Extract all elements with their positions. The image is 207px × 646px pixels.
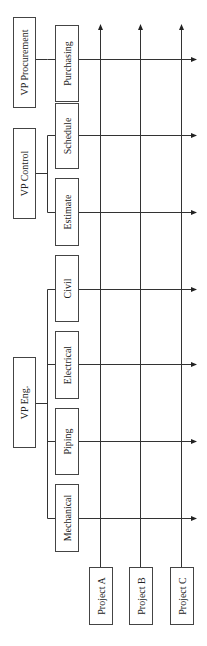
dept-box-electrical-label: Electrical [62,346,73,385]
vp-box-vp-procurement: VP Procurement [14,18,36,108]
dept-box-electrical: Electrical [56,332,79,399]
project-box-project-b-label: Project B [136,577,147,615]
dept-box-piping-label: Piping [62,428,73,454]
vp-box-vp-procurement-label: VP Procurement [19,29,30,95]
project-box-project-b: Project B [130,568,153,625]
dept-box-purchasing: Purchasing [56,26,79,102]
vp-box-vp-eng: VP Eng. [14,358,36,448]
project-box-project-a: Project A [90,568,113,625]
org-boxes: PurchasingVP ProcurementScheduleEstimate… [14,18,194,625]
project-box-project-a-label: Project A [96,576,107,614]
dept-box-estimate: Estimate [56,179,79,246]
project-box-project-c: Project C [171,568,194,625]
dept-box-estimate-label: Estimate [62,194,73,230]
dept-box-civil-label: Civil [62,278,73,298]
dept-box-piping: Piping [56,409,79,475]
matrix-org-diagram: PurchasingVP ProcurementScheduleEstimate… [0,0,207,646]
dept-box-schedule: Schedule [56,104,79,169]
dept-box-mechanical-label: Mechanical [62,494,73,541]
vp-box-vp-control: VP Control [14,129,36,219]
dept-box-mechanical: Mechanical [56,485,79,552]
dept-box-purchasing-label: Purchasing [62,41,73,85]
dept-box-schedule-label: Schedule [62,117,73,154]
vp-box-vp-control-label: VP Control [19,151,30,197]
dept-box-civil: Civil [56,256,79,322]
project-box-project-c-label: Project C [177,577,188,615]
vp-box-vp-eng-label: VP Eng. [19,386,30,420]
